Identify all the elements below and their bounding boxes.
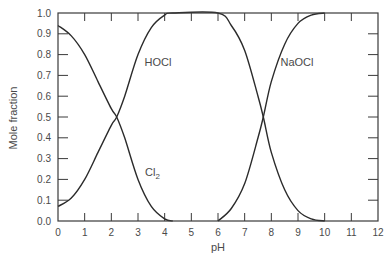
- y-tick-label: 0.3: [37, 153, 51, 164]
- x-tick-label: 1: [82, 227, 88, 238]
- y-tick-labels: 0.00.10.20.30.40.50.60.70.80.91.0: [37, 8, 51, 227]
- x-tick-label: 0: [55, 227, 61, 238]
- plot-frame: [58, 13, 378, 221]
- axis-ticks: [58, 13, 378, 221]
- naocl-label: NaOCl: [280, 56, 313, 68]
- x-tick-label: 8: [269, 227, 275, 238]
- x-tick-label: 2: [109, 227, 115, 238]
- y-tick-label: 0.9: [37, 28, 51, 39]
- y-tick-label: 0.1: [37, 195, 51, 206]
- x-tick-label: 7: [242, 227, 248, 238]
- x-tick-label: 5: [189, 227, 195, 238]
- curve-naocl: [218, 13, 325, 221]
- x-tick-label: 9: [295, 227, 301, 238]
- y-tick-label: 0.4: [37, 132, 51, 143]
- chart-container: 0123456789101112 0.00.10.20.30.40.50.60.…: [0, 0, 390, 268]
- x-tick-label: 11: [346, 227, 357, 238]
- x-tick-label: 6: [215, 227, 221, 238]
- y-tick-label: 1.0: [37, 8, 51, 19]
- y-tick-label: 0.7: [37, 70, 51, 81]
- y-tick-label: 0.8: [37, 49, 51, 60]
- x-axis-label: pH: [211, 241, 225, 253]
- x-tick-label: 3: [135, 227, 141, 238]
- curve-cl2: [58, 26, 173, 222]
- y-tick-label: 0.0: [37, 216, 51, 227]
- x-tick-labels: 0123456789101112: [55, 227, 384, 238]
- y-tick-label: 0.6: [37, 91, 51, 102]
- cl2-label-subscript: 2: [155, 172, 160, 181]
- x-tick-label: 4: [162, 227, 168, 238]
- mole-fraction-chart: 0123456789101112 0.00.10.20.30.40.50.60.…: [0, 0, 390, 268]
- cl2-label-main: Cl: [145, 166, 155, 178]
- x-tick-label: 10: [319, 227, 331, 238]
- cl2-label: Cl2: [145, 166, 160, 181]
- hocl-label: HOCl: [145, 56, 172, 68]
- y-tick-label: 0.2: [37, 174, 51, 185]
- x-tick-label: 12: [372, 227, 384, 238]
- curves: [58, 12, 325, 221]
- y-tick-label: 0.5: [37, 112, 51, 123]
- y-axis-label: Mole fraction: [7, 87, 19, 150]
